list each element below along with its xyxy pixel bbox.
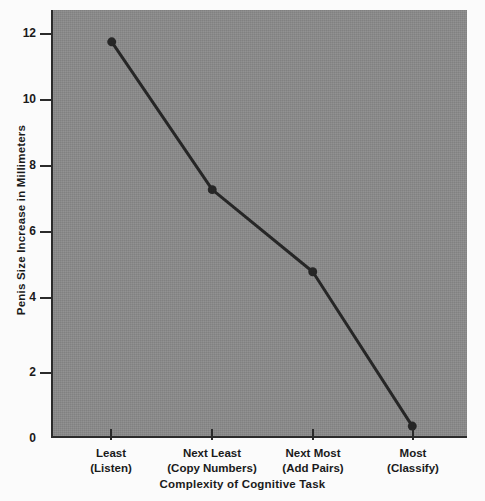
x-tick-label-most: Most (Classify) (343, 446, 483, 476)
y-tick-label-2: 2 (2, 365, 36, 379)
chart-figure: Penis Size Increase in Millimeters 12 10… (0, 0, 485, 501)
y-tick-label-4: 4 (2, 290, 36, 304)
y-tick-mark-12 (40, 33, 51, 35)
y-tick-mark-10 (40, 99, 51, 101)
x-tick-mark-least (110, 429, 112, 440)
line-path (112, 42, 413, 426)
y-tick-mark-4 (40, 297, 51, 299)
x-tick-label-least-line1: Least (96, 447, 126, 459)
y-tick-mark-2 (40, 372, 51, 374)
data-point-0 (107, 37, 116, 46)
x-axis-title: Complexity of Cognitive Task (0, 478, 485, 490)
y-tick-label-6: 6 (2, 224, 36, 238)
x-tick-label-next-least-line1: Next Least (183, 447, 241, 459)
x-tick-mark-most (412, 429, 414, 440)
x-tick-label-most-line2: (Classify) (343, 461, 483, 476)
data-point-2 (308, 267, 317, 276)
y-tick-mark-8 (40, 165, 51, 167)
series-line-penis-size (53, 10, 467, 436)
plot-area (51, 10, 467, 438)
y-tick-mark-6 (40, 231, 51, 233)
y-tick-label-10: 10 (2, 92, 36, 106)
y-tick-label-8: 8 (2, 158, 36, 172)
x-tick-mark-next-most (312, 429, 314, 440)
x-tick-label-next-most-line1: Next Most (286, 447, 341, 459)
x-tick-mark-next-least (211, 429, 213, 440)
y-tick-label-12: 12 (2, 26, 36, 40)
data-point-markers (107, 37, 416, 430)
y-tick-label-0: 0 (2, 431, 36, 445)
data-point-1 (208, 185, 217, 194)
x-tick-label-most-line1: Most (400, 447, 427, 459)
